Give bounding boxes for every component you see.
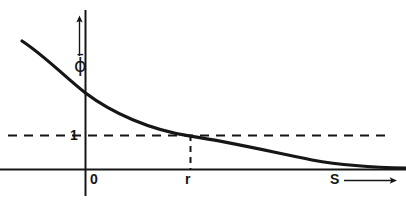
y-axis-label: ϕ̄ bbox=[74, 56, 87, 75]
x-tick-label-r: r bbox=[185, 172, 190, 186]
phi-bar-vs-s-plot: ϕ̄ 1 0 r S bbox=[0, 0, 406, 205]
plot-canvas bbox=[0, 0, 406, 205]
origin-label: 0 bbox=[90, 172, 98, 186]
right-arrow-icon bbox=[344, 177, 397, 184]
x-axis-label: S bbox=[330, 172, 339, 186]
y-tick-label-1: 1 bbox=[70, 128, 78, 142]
up-arrow-icon bbox=[76, 16, 82, 57]
